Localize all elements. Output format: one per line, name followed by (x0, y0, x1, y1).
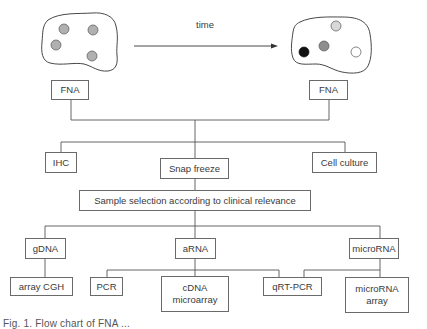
figure-caption: Fig. 1. Flow chart of FNA ... (3, 318, 130, 329)
cell-culture-node: Cell culture (312, 152, 377, 173)
array-cgh-node: array CGH (10, 277, 73, 296)
arrow-head-icon (271, 44, 278, 49)
cdna-microarray-node: cDNA microarray (161, 276, 229, 312)
ihc-node: IHC (45, 152, 77, 173)
microrna-array-node: microRNA array (345, 277, 409, 313)
time-label: time (196, 19, 214, 30)
microrna-node: microRNA (349, 238, 399, 259)
snap-freeze-node: Snap freeze (160, 158, 229, 179)
fna-right-node: FNA (309, 80, 348, 100)
cells-after (299, 21, 361, 57)
pcr-node: PCR (90, 277, 123, 296)
arna-node: aRNA (175, 238, 216, 259)
fna-left-node: FNA (51, 80, 89, 100)
sample-selection-node: Sample selection according to clinical r… (79, 190, 311, 211)
gdna-node: gDNA (25, 238, 66, 259)
cells-before (51, 24, 98, 61)
qrt-pcr-node: qRT-PCR (263, 277, 322, 296)
